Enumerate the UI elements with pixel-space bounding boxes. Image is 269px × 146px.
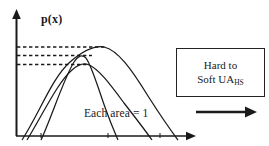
area-annotation: Each area = 1	[84, 107, 148, 119]
legend-text: Hard to Soft UAHS	[177, 58, 264, 88]
y-axis-label-text: p(x)	[41, 12, 62, 26]
legend-line-1: Hard to	[204, 59, 237, 71]
y-axis	[12, 9, 21, 136]
direction-arrow-head	[245, 107, 257, 118]
area-annotation-text: Each area = 1	[84, 107, 148, 119]
curve-narrow	[41, 56, 118, 140]
direction-arrow	[196, 107, 257, 118]
probability-density-figure: p(x) Each area = 1 Hard to Soft UAHS	[0, 0, 269, 146]
peak-dashed-lines	[17, 47, 106, 65]
legend-line-2-prefix: Soft UA	[197, 73, 234, 85]
x-axis-arrowhead	[186, 132, 196, 140]
y-axis-label: p(x)	[41, 12, 62, 27]
y-axis-arrowhead	[12, 9, 21, 19]
density-curves	[22, 47, 178, 140]
legend-line-2: Soft UAHS	[177, 72, 264, 88]
legend-box: Hard to Soft UAHS	[176, 48, 265, 97]
legend-line-2-subscript: HS	[234, 78, 244, 87]
